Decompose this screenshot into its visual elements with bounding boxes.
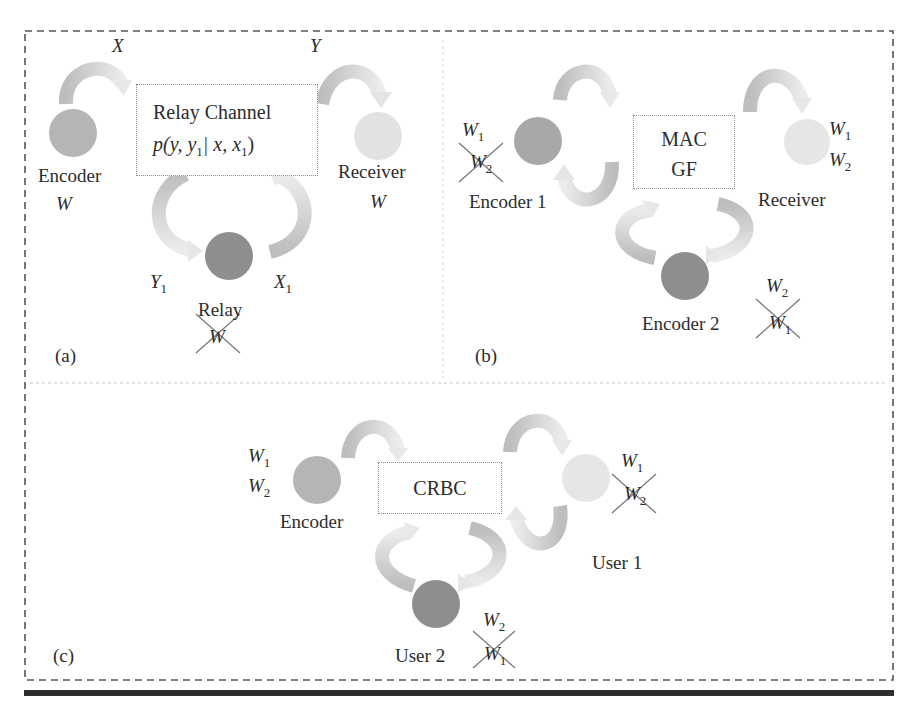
relay-channel-formula: p(y, y1| x, x1) (137, 133, 317, 156)
signal-x1-label: X1 (274, 272, 292, 291)
user1-node (562, 454, 610, 502)
arrow-icon (382, 532, 414, 586)
crbc-box: CRBC (378, 462, 502, 514)
encoder-c-message-2: W2 (248, 476, 270, 495)
arrow-y1-icon (159, 174, 190, 250)
arrowhead-icon (600, 92, 620, 108)
encoder1-label: Encoder 1 (469, 192, 547, 211)
panel-tag-a: (a) (55, 346, 76, 365)
encoder1-message-kept: W1 (462, 120, 484, 139)
user2-node (412, 580, 460, 628)
panel-tag-c: (c) (53, 646, 74, 665)
arrow-icon (712, 204, 747, 256)
encoder-c-label: Encoder (280, 512, 343, 531)
panel-tag-b: (b) (475, 346, 497, 365)
encoder2-message-kept: W2 (766, 276, 788, 295)
relay-node (205, 232, 253, 280)
arrow-icon (750, 76, 802, 112)
encoder2-node (661, 252, 709, 300)
user2-message-kept: W2 (483, 610, 505, 629)
encoder-node (49, 109, 97, 157)
arrowhead-icon (112, 80, 132, 96)
encoder1-message-crossed: W2 (470, 152, 492, 171)
arrowhead-icon (388, 448, 408, 462)
signal-x-label: X (112, 36, 124, 55)
mac-label: MAC (634, 128, 734, 151)
relay-channel-box: Relay Channel p(y, y1| x, x1) (136, 84, 318, 176)
arrowhead-icon (553, 164, 575, 180)
arrowhead-icon (370, 92, 392, 108)
mac-gf-box: MAC GF (633, 115, 735, 189)
encoder2-label: Encoder 2 (642, 314, 720, 333)
gf-label: GF (634, 158, 734, 181)
user2-label: User 2 (395, 646, 445, 665)
user1-message-kept: W1 (621, 451, 643, 470)
encoder-message: W (56, 194, 72, 213)
arrowhead-icon (188, 240, 203, 262)
arrowhead-icon (505, 506, 527, 520)
relay-label: Relay (198, 300, 242, 319)
arrow-y-icon (322, 71, 380, 104)
arrowhead-icon (792, 98, 812, 114)
arrow-icon (466, 528, 500, 582)
arrow-icon (510, 421, 562, 452)
crbc-label: CRBC (379, 477, 501, 500)
arrow-x-icon (66, 69, 122, 104)
relay-channel-title: Relay Channel (137, 101, 317, 124)
encoder2-message-crossed: W1 (769, 313, 791, 332)
arrowhead-icon (552, 440, 572, 456)
receiver-label: Receiver (338, 162, 406, 181)
relay-channel-figure: Relay Channel p(y, y1| x, x1) X Y Encode… (0, 0, 918, 701)
relay-message-crossed: W (209, 327, 225, 346)
encoder1-node (514, 117, 562, 165)
bottom-rule (24, 690, 894, 696)
arrow-icon (348, 427, 398, 458)
arrow-icon (516, 506, 561, 543)
receiver-b-label: Receiver (758, 190, 826, 209)
arrow-x1-icon (270, 176, 305, 252)
receiver-node-b (784, 119, 830, 165)
arrow-icon (564, 162, 612, 199)
arrow-icon (622, 210, 655, 258)
user2-message-crossed: W1 (484, 644, 506, 663)
encoder-node-c (293, 456, 341, 504)
user1-message-crossed: W2 (624, 484, 646, 503)
user1-label: User 1 (592, 553, 642, 572)
receiver-message: W (370, 192, 386, 211)
signal-y1-label: Y1 (150, 272, 167, 291)
receiver-node (354, 112, 402, 160)
encoder-c-message-1: W1 (248, 446, 270, 465)
encoder-label: Encoder (38, 166, 101, 185)
receiver-b-message-2: W2 (829, 150, 851, 169)
signal-y-label: Y (310, 36, 321, 55)
receiver-b-message-1: W1 (829, 119, 851, 138)
